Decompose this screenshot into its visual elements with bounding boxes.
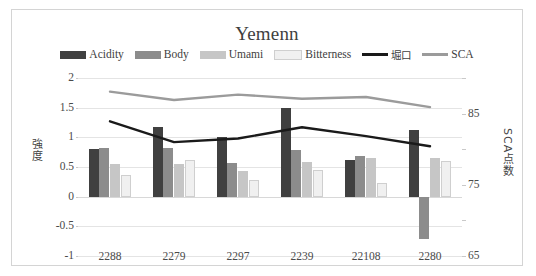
tick-mark	[462, 114, 466, 115]
y-axis-left-title: 強度	[28, 138, 44, 162]
legend-item-umami[interactable]: Umami	[200, 49, 264, 61]
x-tick-label: 2288	[99, 250, 122, 262]
legend-label: SCA	[451, 49, 473, 61]
y-tick-left: 2	[28, 72, 74, 84]
chart-legend: AcidityBodyUmamiBitterness堀口SCA	[12, 49, 522, 61]
x-tick-label: 2280	[419, 250, 442, 262]
x-tick-label: 2239	[291, 250, 314, 262]
legend-swatch-line-icon	[422, 53, 448, 56]
plot-area	[78, 78, 462, 256]
chart-frame: Yemenn AcidityBodyUmamiBitterness堀口SCA 2…	[11, 9, 523, 266]
x-tick-label: 2279	[163, 250, 186, 262]
x-tick-label: 22108	[352, 250, 381, 262]
y-tick-right: 65	[468, 250, 514, 262]
x-axis-ticks: 2288227922972239221082280	[78, 250, 462, 268]
legend-item-acidity[interactable]: Acidity	[60, 49, 124, 61]
tick-mark	[462, 149, 466, 150]
legend-swatch-bar-icon	[60, 51, 86, 59]
tick-mark	[462, 220, 466, 221]
legend-label: Acidity	[89, 49, 124, 61]
y-tick-left: 0	[28, 191, 74, 203]
legend-item-bitterness[interactable]: Bitterness	[274, 49, 351, 61]
legend-swatch-bar-icon	[200, 51, 226, 59]
legend-label: Body	[164, 49, 189, 61]
legend-swatch-bar-icon	[274, 50, 302, 60]
chart-screenshot: Yemenn AcidityBodyUmamiBitterness堀口SCA 2…	[0, 0, 536, 276]
y-tick-left: -1	[28, 250, 74, 262]
y-tick-right: 75	[468, 179, 514, 191]
legend-label: Bitterness	[305, 49, 351, 61]
line-SCA	[110, 92, 430, 107]
tick-mark	[462, 78, 466, 79]
line-堀口	[110, 121, 430, 146]
tick-mark	[462, 185, 466, 186]
y-tick-left: 1.5	[28, 102, 74, 114]
x-tick-label: 2297	[227, 250, 250, 262]
page-title: Yemenn	[12, 23, 522, 45]
legend-item-堀口[interactable]: 堀口	[362, 50, 411, 61]
tick-mark	[462, 256, 466, 257]
legend-swatch-line-icon	[362, 53, 388, 56]
legend-swatch-bar-icon	[135, 51, 161, 59]
y-axis-left-ticks: 21.510.50-0.5-1	[28, 78, 74, 256]
y-tick-left: 0.5	[28, 161, 74, 173]
y-axis-right-title: SCA点数	[499, 128, 515, 177]
y-tick-left: -0.5	[28, 221, 74, 233]
line-series-overlay	[78, 78, 462, 256]
legend-label: 堀口	[391, 50, 411, 61]
y-tick-right: 85	[468, 108, 514, 120]
legend-label: Umami	[229, 49, 264, 61]
legend-item-sca[interactable]: SCA	[422, 49, 473, 61]
legend-item-body[interactable]: Body	[135, 49, 189, 61]
